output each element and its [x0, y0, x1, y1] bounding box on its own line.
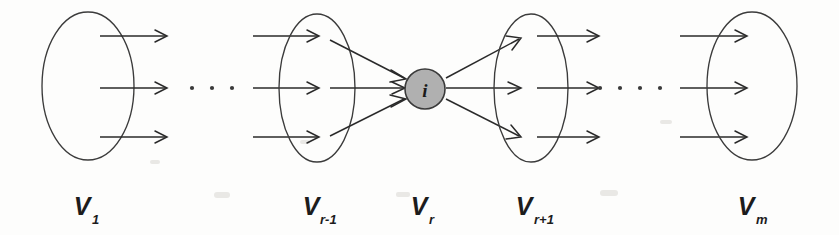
edge-diverge-middle [446, 82, 521, 94]
node-label-i: i [422, 80, 428, 101]
set-label-vm-subscript: m [756, 212, 768, 227]
ellipsis-right [598, 86, 662, 90]
edge-converge-middle [330, 82, 405, 94]
edge-diverge-top [446, 36, 521, 78]
edge-in-vm-middle [680, 82, 747, 94]
ellipsis-dot [658, 86, 662, 90]
set-ellipse-v1 [42, 12, 134, 160]
ellipsis-dot [230, 86, 234, 90]
ellipsis-dot [190, 86, 194, 90]
ellipsis-dot [618, 86, 622, 90]
set-label-vm-main: V [738, 192, 757, 220]
edges-into-node-i [330, 40, 406, 136]
paper-texture [150, 120, 672, 198]
set-label-vr-main: V [411, 192, 430, 220]
edge-in-vm-top [680, 30, 747, 42]
ellipsis-dot [210, 86, 214, 90]
edge-converge-bottom [330, 95, 406, 136]
set-label-vr-plus-1-main: V [516, 192, 535, 220]
set-label-vr-minus-1: V r-1 [303, 192, 337, 227]
edge-in-vr1-middle [253, 82, 319, 94]
edge-out-vrp1-top [537, 30, 599, 42]
layered-set-diagram: i [0, 0, 839, 235]
set-label-vr-plus-1: V r+1 [516, 192, 554, 227]
figure-canvas: i [0, 0, 839, 235]
set-label-v1: V 1 [74, 192, 100, 227]
set-group-v1 [42, 12, 167, 160]
ellipsis-dot [638, 86, 642, 90]
center-node-i[interactable]: i [405, 69, 445, 109]
set-group-vm [680, 12, 797, 160]
set-label-vm: V m [738, 192, 768, 227]
set-label-vr: V r [411, 192, 435, 227]
set-ellipse-vm [707, 12, 797, 160]
edges-out-of-node-i [446, 36, 521, 139]
set-label-vr-plus-1-subscript: r+1 [534, 212, 554, 227]
set-label-vr-minus-1-main: V [303, 192, 322, 220]
edge-v1-out-top [100, 30, 167, 42]
set-label-vr-subscript: r [429, 212, 435, 227]
set-label-vr-minus-1-subscript: r-1 [320, 212, 337, 227]
edge-out-vrp1-bottom [537, 131, 599, 143]
set-label-v1-subscript: 1 [92, 212, 99, 227]
edge-diverge-bottom [446, 99, 521, 139]
edge-in-vm-bottom [680, 131, 747, 143]
edge-in-vr1-top [253, 30, 319, 42]
set-label-v1-main: V [74, 192, 93, 220]
edge-converge-top [330, 40, 406, 82]
ellipsis-dot [598, 86, 602, 90]
edge-v1-out-bottom [100, 131, 167, 143]
ellipsis-left [190, 86, 234, 90]
